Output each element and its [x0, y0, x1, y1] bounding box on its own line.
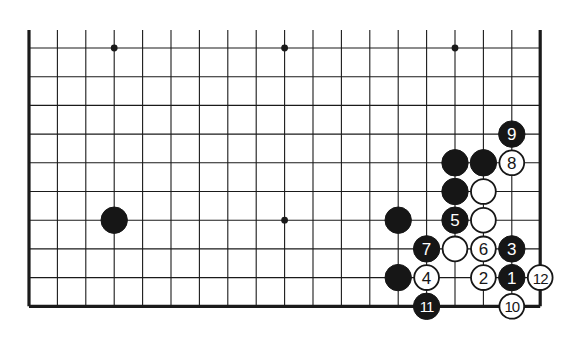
- move-number: 12: [533, 270, 548, 287]
- black-stone: [101, 207, 127, 233]
- go-board: 123456789101112: [0, 0, 585, 343]
- black-stone: [385, 264, 411, 290]
- star-point: [281, 217, 288, 224]
- white-stone: [471, 179, 496, 204]
- white-stone-12: 12: [528, 265, 553, 290]
- white-stone-2: 2: [471, 265, 496, 290]
- black-stone-9: 9: [499, 121, 525, 147]
- white-stone-4: 4: [414, 265, 439, 290]
- black-stone-1: 1: [499, 264, 525, 290]
- move-number: 11: [420, 298, 434, 315]
- black-stone-3: 3: [499, 236, 525, 262]
- white-stone-6: 6: [471, 237, 496, 262]
- black-stone: [470, 150, 496, 176]
- move-number: 5: [450, 211, 459, 230]
- black-stone-11: 11: [413, 293, 439, 319]
- star-point: [281, 45, 288, 52]
- move-number: 2: [479, 269, 488, 288]
- move-number: 6: [479, 240, 488, 259]
- move-number: 8: [507, 154, 516, 173]
- move-number: 1: [507, 269, 516, 288]
- white-stone: [471, 208, 496, 233]
- move-number: 7: [422, 240, 431, 259]
- star-point: [452, 45, 459, 52]
- move-number: 10: [504, 298, 519, 315]
- black-stone: [442, 150, 468, 176]
- move-number: 9: [507, 125, 516, 144]
- white-stone-10: 10: [499, 294, 524, 319]
- black-stone: [385, 207, 411, 233]
- move-number: 3: [507, 240, 516, 259]
- white-stone-8: 8: [499, 150, 524, 175]
- white-stone: [443, 237, 468, 262]
- move-number: 4: [422, 269, 431, 288]
- black-stone-5: 5: [442, 207, 468, 233]
- star-point: [111, 45, 118, 52]
- black-stone: [442, 178, 468, 204]
- black-stone-7: 7: [413, 236, 439, 262]
